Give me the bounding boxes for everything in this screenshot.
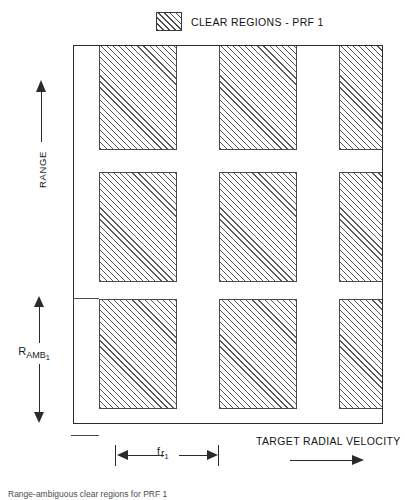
clear-region-block <box>339 172 383 282</box>
clear-region-block <box>99 299 177 409</box>
range-ambiguity-dimension: RAMB1 <box>18 295 66 423</box>
legend-label: CLEAR REGIONS - PRF 1 <box>191 16 324 28</box>
ramb-symbol: R <box>18 345 26 357</box>
baseline-stub <box>71 435 99 436</box>
dimension-tick-left <box>115 445 116 466</box>
clear-region-block <box>99 45 177 150</box>
hatched-square-icon <box>156 12 182 31</box>
arrow-right-icon <box>352 455 364 465</box>
diagram-page: CLEAR REGIONS - PRF 1 RANGE RAMB1 <box>0 0 405 500</box>
arrow-right-icon <box>207 450 218 460</box>
frl-sub-subscript: 1 <box>164 452 168 461</box>
arrow-down-icon <box>34 412 44 423</box>
figure-caption: Range-ambiguous clear regions for PRF 1 <box>8 489 167 500</box>
target-radial-velocity-axis: TARGET RADIAL VELOCITY <box>256 435 398 469</box>
clear-region-block <box>99 172 177 282</box>
clear-region-block <box>339 45 383 150</box>
prf-spacing-dimension: fr1 <box>115 443 221 469</box>
clear-region-block <box>339 299 383 409</box>
ramb-sub-subscript: 1 <box>46 353 50 362</box>
prf-spacing-label: fr1 <box>157 445 169 461</box>
velocity-axis-line <box>290 460 356 461</box>
clear-region-block <box>219 45 297 150</box>
clear-region-block <box>219 299 297 409</box>
target-radial-velocity-label: TARGET RADIAL VELOCITY <box>256 435 398 447</box>
legend: CLEAR REGIONS - PRF 1 <box>156 12 324 31</box>
range-axis: RANGE <box>24 72 60 232</box>
clear-region-block <box>219 172 297 282</box>
range-reference-tick <box>73 298 99 299</box>
dimension-tick-right <box>218 445 219 466</box>
range-axis-label: RANGE <box>37 130 48 210</box>
ramb-subscript: AMB <box>26 350 46 360</box>
range-ambiguity-label: RAMB1 <box>2 343 66 364</box>
plot-frame <box>73 45 383 424</box>
